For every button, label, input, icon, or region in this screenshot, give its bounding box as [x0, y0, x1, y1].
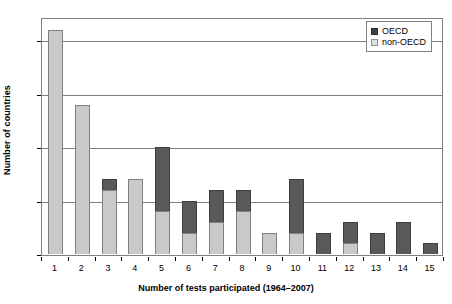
x-tick-label-12: 12: [334, 263, 364, 273]
bar-group-3: [102, 179, 117, 254]
y-tick-mark-5: [37, 202, 41, 203]
bar-segment-oecd-10: [289, 179, 304, 232]
bar-group-7: [209, 190, 224, 254]
bar-group-12: [343, 222, 358, 254]
bar-group-10: [289, 179, 304, 254]
x-tick-label-3: 3: [93, 263, 123, 273]
bar-segment-oecd-5: [155, 147, 170, 211]
bar-segment-non-oecd-8: [236, 211, 251, 254]
x-tick-label-9: 9: [254, 263, 284, 273]
bar-group-4: [128, 179, 143, 254]
bar-chart-figure: Number of countries 05101520 12345678910…: [0, 0, 452, 304]
bar-segment-non-oecd-1: [48, 30, 63, 254]
x-tick-label-14: 14: [388, 263, 418, 273]
x-tick-mark-9: [282, 257, 283, 261]
x-tick-mark-12: [363, 257, 364, 261]
light-square-swatch-icon: [371, 39, 378, 46]
bar-segment-non-oecd-4: [128, 179, 143, 254]
bar-group-9: [262, 233, 277, 254]
bar-segment-non-oecd-10: [289, 233, 304, 254]
x-tick-mark-2: [95, 257, 96, 261]
x-tick-mark-1: [68, 257, 69, 261]
bar-segment-non-oecd-9: [262, 233, 277, 254]
x-tick-mark-6: [202, 257, 203, 261]
x-tick-mark-14: [416, 257, 417, 261]
legend-label-oecd: OECD: [382, 26, 408, 36]
bar-segment-non-oecd-3: [102, 190, 117, 254]
x-tick-label-1: 1: [39, 263, 69, 273]
x-tick-label-11: 11: [307, 263, 337, 273]
bar-segment-oecd-3: [102, 179, 117, 190]
y-axis-title-text: Number of countries: [2, 85, 12, 175]
bar-segment-oecd-14: [396, 222, 411, 254]
x-tick-label-2: 2: [66, 263, 96, 273]
bar-group-15: [423, 243, 438, 254]
bar-group-8: [236, 190, 251, 254]
x-tick-mark-origin: [41, 257, 42, 261]
x-tick-label-6: 6: [173, 263, 203, 273]
x-tick-mark-10: [309, 257, 310, 261]
bar-segment-oecd-15: [423, 243, 438, 254]
bar-segment-non-oecd-12: [343, 243, 358, 254]
bar-segment-oecd-8: [236, 190, 251, 211]
x-tick-mark-13: [389, 257, 390, 261]
bar-segment-oecd-13: [370, 233, 385, 254]
bar-segment-oecd-7: [209, 190, 224, 222]
x-tick-mark-3: [121, 257, 122, 261]
bar-group-14: [396, 222, 411, 254]
x-tick-mark-8: [255, 257, 256, 261]
plot-area: [41, 18, 443, 256]
x-tick-label-4: 4: [120, 263, 150, 273]
y-tick-mark-10: [37, 148, 41, 149]
bar-group-11: [316, 233, 331, 254]
bar-group-5: [155, 147, 170, 254]
y-axis-title: Number of countries: [0, 0, 14, 260]
x-tick-mark-7: [229, 257, 230, 261]
bar-group-2: [75, 105, 90, 255]
x-axis-title: Number of tests participated (1964–2007): [0, 283, 452, 293]
bar-segment-oecd-11: [316, 233, 331, 254]
x-tick-label-10: 10: [281, 263, 311, 273]
chart-legend: OECD non-OECD: [366, 21, 432, 52]
bar-segment-non-oecd-6: [182, 233, 197, 254]
y-tick-mark-0: [37, 255, 41, 256]
x-tick-label-8: 8: [227, 263, 257, 273]
x-tick-label-5: 5: [147, 263, 177, 273]
y-tick-mark-15: [37, 95, 41, 96]
dark-square-swatch-icon: [371, 28, 378, 35]
x-tick-mark-11: [336, 257, 337, 261]
bar-segment-non-oecd-7: [209, 222, 224, 254]
bar-segment-non-oecd-2: [75, 105, 90, 255]
x-tick-label-13: 13: [361, 263, 391, 273]
bar-group-13: [370, 233, 385, 254]
legend-item-non-oecd: non-OECD: [371, 37, 426, 47]
bar-segment-oecd-6: [182, 201, 197, 233]
bar-group-6: [182, 201, 197, 254]
x-tick-label-15: 15: [415, 263, 445, 273]
x-tick-mark-15: [443, 257, 444, 261]
legend-label-non-oecd: non-OECD: [382, 37, 426, 47]
bar-segment-non-oecd-5: [155, 211, 170, 254]
bar-group-1: [48, 30, 63, 254]
x-tick-mark-5: [175, 257, 176, 261]
gridline-y-10: [42, 148, 442, 149]
bar-segment-oecd-12: [343, 222, 358, 243]
x-tick-label-7: 7: [200, 263, 230, 273]
legend-item-oecd: OECD: [371, 26, 426, 36]
gridline-y-15: [42, 95, 442, 96]
x-tick-mark-4: [148, 257, 149, 261]
y-tick-mark-20: [37, 41, 41, 42]
